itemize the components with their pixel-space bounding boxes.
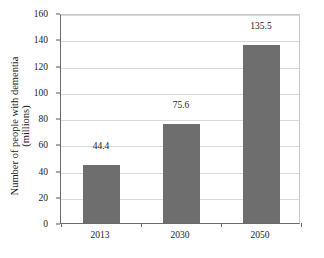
y-tick-label: 0 xyxy=(43,219,48,229)
plot-area: 44.475.6135.5 xyxy=(60,14,300,224)
x-tick-label: 2013 xyxy=(91,230,110,240)
bar[interactable] xyxy=(163,124,200,223)
y-tick-label: 20 xyxy=(39,193,49,203)
bar-group[interactable]: 135.5 xyxy=(243,15,280,223)
x-tick-mark xyxy=(221,223,222,227)
bar-chart: Number of people with dementia (millions… xyxy=(0,0,324,258)
x-axis-labels: 201320302050 xyxy=(60,228,300,248)
y-tick-label: 120 xyxy=(34,62,48,72)
bar-value-label: 44.4 xyxy=(93,141,110,153)
y-axis-ticks: 020406080100120140160 xyxy=(0,0,56,258)
bar-value-label: 135.5 xyxy=(250,21,271,33)
x-tick-mark xyxy=(141,223,142,227)
bar-group[interactable]: 44.4 xyxy=(83,15,120,223)
x-tick-mark xyxy=(61,223,62,227)
y-tick-label: 40 xyxy=(39,167,49,177)
y-tick-label: 160 xyxy=(34,9,48,19)
bar-value-label: 75.6 xyxy=(173,100,190,112)
y-tick-label: 100 xyxy=(34,88,48,98)
bar[interactable] xyxy=(243,45,280,223)
bars-layer: 44.475.6135.5 xyxy=(61,15,299,223)
x-tick-label: 2050 xyxy=(251,230,270,240)
bar[interactable] xyxy=(83,165,120,223)
x-tick-label: 2030 xyxy=(171,230,190,240)
y-tick-label: 60 xyxy=(39,140,49,150)
y-tick-label: 80 xyxy=(39,114,49,124)
y-tick-label: 140 xyxy=(34,35,48,45)
bar-group[interactable]: 75.6 xyxy=(163,15,200,223)
x-tick-mark xyxy=(301,223,302,227)
